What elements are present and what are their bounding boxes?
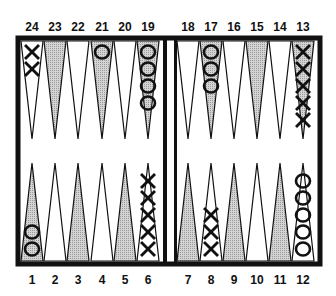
bottom-point-labels: 123456789101112: [29, 273, 310, 287]
point-9[interactable]: [223, 163, 245, 261]
point-7[interactable]: [177, 163, 199, 261]
point-6[interactable]: [137, 163, 159, 261]
point-label-10: 10: [250, 273, 264, 287]
backgammon-board: 242322212019181716151413 123456789101112: [0, 0, 336, 296]
point-5[interactable]: [114, 163, 136, 261]
point-label-5: 5: [122, 273, 129, 287]
point-20[interactable]: [114, 41, 136, 139]
point-label-15: 15: [250, 20, 264, 34]
point-18[interactable]: [177, 41, 199, 139]
point-label-6: 6: [145, 273, 152, 287]
point-label-8: 8: [208, 273, 215, 287]
board-points: [21, 41, 314, 261]
point-3[interactable]: [67, 163, 89, 261]
point-13[interactable]: [292, 41, 314, 139]
top-point-labels: 242322212019181716151413: [25, 20, 310, 34]
point-21[interactable]: [91, 41, 113, 139]
point-label-20: 20: [118, 20, 132, 34]
point-label-4: 4: [99, 273, 106, 287]
point-label-7: 7: [185, 273, 192, 287]
point-label-3: 3: [75, 273, 82, 287]
point-16[interactable]: [223, 41, 245, 139]
point-label-11: 11: [274, 273, 287, 287]
point-17[interactable]: [200, 41, 222, 139]
point-14[interactable]: [269, 41, 291, 139]
point-label-17: 17: [204, 20, 218, 34]
point-label-9: 9: [231, 273, 238, 287]
point-10[interactable]: [246, 163, 268, 261]
point-15[interactable]: [246, 41, 268, 139]
point-label-22: 22: [71, 20, 85, 34]
point-24[interactable]: [21, 41, 43, 139]
point-label-19: 19: [141, 20, 155, 34]
point-label-1: 1: [29, 273, 36, 287]
point-label-14: 14: [273, 20, 287, 34]
point-23[interactable]: [44, 41, 66, 139]
point-label-12: 12: [296, 273, 310, 287]
point-label-23: 23: [48, 20, 62, 34]
point-label-18: 18: [181, 20, 195, 34]
point-2[interactable]: [44, 163, 66, 261]
point-label-16: 16: [227, 20, 241, 34]
point-8[interactable]: [200, 163, 222, 261]
point-label-21: 21: [95, 20, 109, 34]
point-label-2: 2: [52, 273, 59, 287]
point-4[interactable]: [91, 163, 113, 261]
point-22[interactable]: [67, 41, 89, 139]
point-11[interactable]: [269, 163, 291, 261]
point-19[interactable]: [137, 41, 159, 139]
point-label-13: 13: [296, 20, 310, 34]
checkers: [25, 45, 310, 256]
point-label-24: 24: [25, 20, 39, 34]
